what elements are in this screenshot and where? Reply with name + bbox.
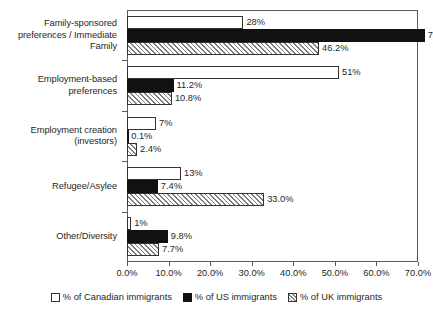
legend-swatch-canadian-icon [51,293,60,302]
bar-uk [127,243,159,256]
x-axis-tick-label: 70.0% [405,267,431,279]
x-axis-tick [335,262,336,266]
y-axis-tick [122,161,127,162]
legend-label: % of US immigrants [195,291,277,303]
bar-ca [127,167,181,180]
x-axis-tick-label: 60.0% [363,267,389,279]
bar-chart: Family-sponsored preferences / Immediate… [0,0,433,317]
x-axis-tick [210,262,211,266]
legend-swatch-uk-icon [288,293,297,302]
legend-label: % of Canadian immigrants [63,291,172,303]
bar-value-label: 7% [156,117,172,130]
x-axis-tick [376,262,377,266]
bar-us [127,230,168,243]
x-axis-tick-label: 40.0% [280,267,306,279]
x-axis-tick [252,262,253,266]
bar-value-label: 13% [181,167,203,180]
legend-item[interactable]: % of US immigrants [183,291,277,303]
x-axis-tick [418,262,419,266]
x-axis-tick [169,262,170,266]
y-axis-tick [122,212,127,213]
bar-value-label: 1% [131,217,147,230]
bar-value-label: 33.0% [264,193,293,206]
bar-us [127,29,425,42]
bar-value-label: 51% [339,66,361,79]
bar-value-label: 2.4% [137,143,161,156]
bar-value-label: 9.8% [168,230,192,243]
x-axis-tick [293,262,294,266]
bar-uk [127,42,319,55]
bar-value-label: 71.6% [425,29,433,42]
x-axis-tick-label: 0.0% [116,267,137,279]
bar-group: 13%7.4%33.0% [0,167,433,206]
x-axis-tick-label: 50.0% [322,267,348,279]
bar-value-label: 0.1% [128,130,152,143]
bar-uk [127,193,264,206]
bar-group: 28%71.6%46.2% [0,16,433,55]
bar-value-label: 11.2% [174,79,203,92]
chart-legend: % of Canadian immigrants% of US immigran… [0,291,433,303]
x-axis-tick-label: 20.0% [197,267,223,279]
bar-group: 1%9.8%7.7% [0,217,433,256]
bar-ca [127,117,156,130]
bar-uk [127,92,172,105]
bar-ca [127,16,243,29]
bar-us [127,79,174,92]
bar-group: 51%11.2%10.8% [0,66,433,105]
bar-value-label: 7.7% [159,243,183,256]
y-axis-tick [122,111,127,112]
x-axis-tick-label: 10.0% [155,267,181,279]
bar-value-label: 46.2% [319,42,348,55]
legend-item[interactable]: % of Canadian immigrants [51,291,172,303]
x-axis-tick-label: 30.0% [239,267,265,279]
bar-ca [127,66,339,79]
bar-group: 7%0.1%2.4% [0,117,433,156]
legend-swatch-us-icon [183,293,192,302]
bar-uk [127,143,137,156]
bar-us [127,180,158,193]
bar-value-label: 7.4% [158,180,182,193]
y-axis-tick [122,60,127,61]
legend-label: % of UK immigrants [300,291,382,303]
bar-value-label: 10.8% [172,92,201,105]
legend-item[interactable]: % of UK immigrants [288,291,382,303]
x-axis-tick [127,262,128,266]
bar-value-label: 28% [243,16,265,29]
